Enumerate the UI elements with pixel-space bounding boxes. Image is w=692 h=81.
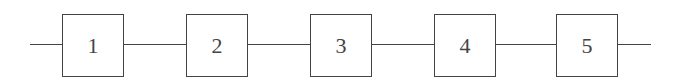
- block-label: 3: [336, 33, 347, 59]
- connector-1-2: [123, 44, 186, 45]
- output-line: [617, 44, 651, 45]
- block-4: 4: [434, 14, 496, 77]
- connector-3-4: [371, 44, 434, 45]
- block-5: 5: [556, 14, 618, 77]
- block-label: 5: [582, 33, 593, 59]
- block-1: 1: [62, 14, 124, 77]
- block-label: 4: [460, 33, 471, 59]
- block-label: 1: [88, 33, 99, 59]
- connector-2-3: [247, 44, 310, 45]
- connector-4-5: [495, 44, 556, 45]
- block-label: 2: [212, 33, 223, 59]
- block-3: 3: [310, 14, 372, 77]
- block-2: 2: [186, 14, 248, 77]
- input-line: [30, 44, 62, 45]
